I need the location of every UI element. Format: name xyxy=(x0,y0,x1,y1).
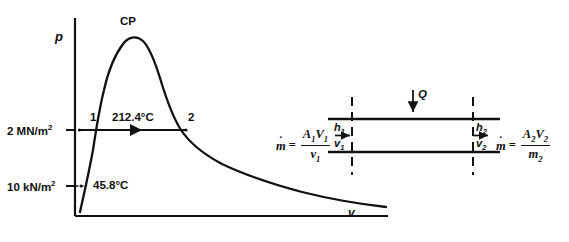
inlet-velocity-symbol: V xyxy=(315,127,323,141)
inlet-specific-volume-label: v1 xyxy=(334,138,344,152)
inlet-specific-volume-subscript: 1 xyxy=(340,143,344,152)
outlet-equals-sign: = xyxy=(509,138,516,153)
inlet-enthalpy-label: h1 xyxy=(334,122,345,136)
outlet-mdot-symbol: · m xyxy=(496,136,506,155)
inlet-mass-flow-equation: · m = A1V1 v1 xyxy=(276,127,332,163)
outlet-velocity-symbol: V xyxy=(535,127,543,141)
saturation-temp-low-label: 45.8°C xyxy=(93,180,128,192)
outlet-fraction-denominator: m2 xyxy=(526,146,544,164)
outlet-specific-volume-label: v2 xyxy=(476,138,486,152)
inlet-velocity-subscript: 1 xyxy=(324,134,328,144)
outlet-velocity-subscript: 2 xyxy=(544,134,548,144)
outlet-enthalpy-label: h2 xyxy=(476,122,487,136)
figure-vector-layer xyxy=(0,0,569,242)
tick-dot-2-mn-m2 xyxy=(78,129,81,132)
outlet-mdot-letter: m xyxy=(496,139,506,154)
inlet-fraction-numerator: A1V1 xyxy=(301,127,330,146)
pressure-tick-2mn-exponent: 2 xyxy=(48,123,52,132)
v-axis-label: v xyxy=(348,207,355,219)
outlet-specific-volume-subscript: 2 xyxy=(482,143,486,152)
inlet-area-symbol: A xyxy=(303,127,311,141)
outlet-fraction-numerator: A2V2 xyxy=(521,127,550,146)
outlet-enthalpy-symbol: h xyxy=(476,121,483,133)
critical-point-label: CP xyxy=(120,16,136,28)
p-axis-label: p xyxy=(55,30,63,43)
state-2-label: 2 xyxy=(188,112,194,124)
pressure-tick-2mn-text: 2 MN/m xyxy=(7,125,48,137)
pressure-tick-label-10kn: 10 kN/m2 xyxy=(7,180,55,193)
outlet-mass-symbol: m xyxy=(528,147,538,161)
inlet-fraction-denominator: v1 xyxy=(309,146,323,164)
inlet-specvol-subscript: 1 xyxy=(316,153,320,163)
outlet-mass-flow-equation: · m = A2V2 m2 xyxy=(496,127,552,163)
thermodynamics-figure: p v CP 1 2 212.4°C 45.8°C 2 MN/m2 10 kN/… xyxy=(0,0,569,242)
inlet-enthalpy-subscript: 1 xyxy=(341,127,345,136)
inlet-equals-sign: = xyxy=(289,138,296,153)
pressure-tick-label-2mn: 2 MN/m2 xyxy=(7,124,52,137)
pressure-tick-10kn-exponent: 2 xyxy=(51,179,55,188)
outlet-enthalpy-subscript: 2 xyxy=(483,127,487,136)
state-point-2-dot xyxy=(184,128,187,131)
outlet-mass-flow-fraction: A2V2 m2 xyxy=(521,127,550,163)
saturation-temp-high-label: 212.4°C xyxy=(112,112,154,124)
inlet-enthalpy-symbol: h xyxy=(334,121,341,133)
inlet-mass-flow-fraction: A1V1 v1 xyxy=(301,127,330,163)
outlet-mass-subscript: 2 xyxy=(538,153,542,163)
outlet-area-symbol: A xyxy=(523,127,531,141)
state-1-label: 1 xyxy=(90,112,96,124)
inlet-mdot-symbol: · m xyxy=(276,136,286,155)
inlet-mdot-letter: m xyxy=(276,139,286,154)
pressure-tick-10kn-text: 10 kN/m xyxy=(7,181,51,193)
heat-transfer-label: Q xyxy=(418,89,427,101)
